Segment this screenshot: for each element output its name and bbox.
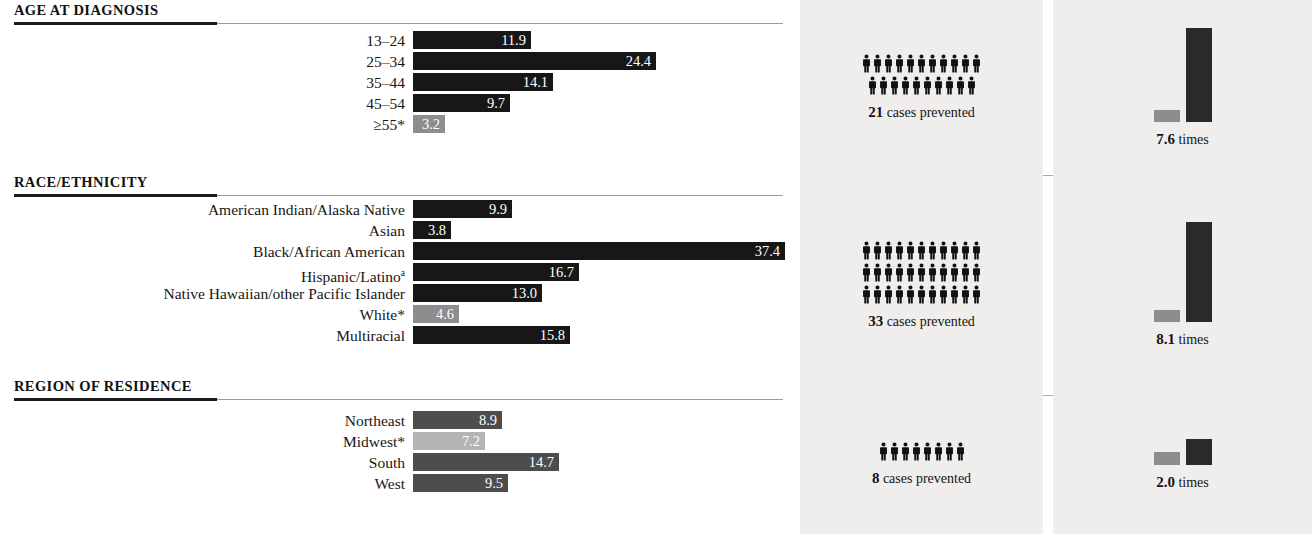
- bar-row-label: Asian: [369, 222, 405, 240]
- section-rule-thin: [217, 195, 783, 196]
- bar-row: Native Hawaiian/other Pacific Islander13…: [0, 284, 800, 305]
- person-icon: [950, 263, 959, 282]
- person-icon: [939, 285, 948, 304]
- bar-value-label: 14.7: [529, 455, 554, 470]
- bar: 14.1: [413, 73, 553, 91]
- bar-row-label: 25–34: [366, 53, 405, 71]
- person-icon: [868, 76, 877, 95]
- bar-value-label: 13.0: [512, 286, 537, 301]
- bar-value-label: 9.7: [487, 96, 505, 111]
- bar-row-label: Black/African American: [253, 243, 405, 261]
- bar-value-label: 24.4: [626, 54, 651, 69]
- cases-prevented-caption: 21 cases prevented: [868, 104, 975, 121]
- bar-value-label: 9.5: [485, 476, 503, 491]
- person-icon: [912, 76, 921, 95]
- bar-row-label: Midwest*: [343, 433, 405, 451]
- person-icon: [884, 54, 893, 73]
- section-heading-region-of-residence: REGION OF RESIDENCE: [14, 378, 192, 395]
- person-icon: [879, 76, 888, 95]
- bar: 3.8: [413, 221, 451, 239]
- bar-row-label: Native Hawaiian/other Pacific Islander: [164, 285, 405, 303]
- section-rule-thick: [14, 398, 217, 401]
- bar-row-label: South: [369, 454, 405, 472]
- person-icon: [906, 241, 915, 260]
- bar-row: Northeast8.9: [0, 411, 800, 432]
- section-rule-thick: [14, 22, 217, 25]
- bar-row-label: White*: [359, 306, 405, 324]
- person-icon: [901, 76, 910, 95]
- ratio-number: 8.1: [1156, 331, 1175, 347]
- bar-rows-age-at-diagnosis: 13–2411.925–3424.435–4414.145–549.7≥55*3…: [0, 31, 800, 136]
- bar-row-label: 45–54: [366, 95, 405, 113]
- bar: 16.7: [413, 263, 579, 281]
- person-icon: [939, 54, 948, 73]
- bar-value-label: 11.9: [501, 33, 526, 48]
- panel-band-region-of-residence: 8 cases prevented2.0 times: [800, 395, 1312, 534]
- bar-row: South14.7: [0, 453, 800, 474]
- panel-band-age-at-diagnosis: 21 cases prevented7.6 times: [800, 0, 1312, 175]
- person-icon: [901, 442, 910, 461]
- bar-row: Multiracial15.8: [0, 326, 800, 347]
- person-icon: [950, 54, 959, 73]
- bar-row: Black/African American37.4: [0, 242, 800, 263]
- ratio-panel: 7.6 times: [1053, 0, 1312, 175]
- person-icon: [939, 263, 948, 282]
- person-icon: [862, 285, 871, 304]
- ratio-bar-pair: [1154, 222, 1212, 322]
- bar-value-label: 3.2: [422, 117, 440, 132]
- person-icon: [873, 263, 882, 282]
- ratio-number: 2.0: [1156, 474, 1175, 490]
- person-icon: [906, 285, 915, 304]
- person-icon: [967, 76, 976, 95]
- cases-prevented-number: 8: [872, 470, 880, 486]
- person-icon: [928, 241, 937, 260]
- cases-prevented-number: 21: [868, 104, 883, 120]
- ratio-caption: 2.0 times: [1156, 474, 1209, 491]
- bar-row-label: ≥55*: [373, 116, 405, 134]
- person-icon: [890, 76, 899, 95]
- bar-rows-region-of-residence: Northeast8.9Midwest*7.2South14.7West9.5: [0, 411, 800, 495]
- bar-row: 25–3424.4: [0, 52, 800, 73]
- bar-row: Hispanic/Latinoa16.7: [0, 263, 800, 284]
- bar-row-label: American Indian/Alaska Native: [208, 201, 405, 219]
- person-icon: [961, 54, 970, 73]
- ratio-reference-bar: [1154, 452, 1180, 465]
- panel-band-race-ethnicity: 33 cases prevented8.1 times: [800, 175, 1312, 395]
- bar-value-label: 4.6: [436, 307, 454, 322]
- person-icon: [934, 76, 943, 95]
- person-icon: [862, 263, 871, 282]
- person-icon: [972, 263, 981, 282]
- bar: 3.2: [413, 115, 445, 133]
- bar-row-label: 35–44: [366, 74, 405, 92]
- cases-prevented-panel: 21 cases prevented: [800, 0, 1043, 175]
- person-icon: [928, 285, 937, 304]
- bar-row: Asian3.8: [0, 221, 800, 242]
- cases-prevented-panel: 8 cases prevented: [800, 395, 1043, 534]
- bar-value-label: 9.9: [489, 202, 507, 217]
- bar-row-label: 13–24: [366, 32, 405, 50]
- section-rule-thick: [14, 194, 217, 197]
- ratio-bar-pair: [1154, 439, 1212, 465]
- person-icon: [890, 442, 899, 461]
- bar-row-label: West: [374, 475, 405, 493]
- person-icon: [923, 76, 932, 95]
- ratio-main-bar: [1186, 28, 1212, 122]
- people-row: [862, 285, 981, 304]
- ratio-panel: 2.0 times: [1053, 395, 1312, 534]
- person-icon: [950, 241, 959, 260]
- person-icon: [972, 241, 981, 260]
- bar: 8.9: [413, 411, 502, 429]
- ratio-reference-bar: [1154, 310, 1180, 322]
- person-icon: [950, 285, 959, 304]
- person-icon: [895, 241, 904, 260]
- section-rule-thin: [217, 23, 783, 24]
- bar: 7.2: [413, 432, 485, 450]
- person-icon: [884, 263, 893, 282]
- people-pictogram: [862, 54, 981, 95]
- person-icon: [945, 76, 954, 95]
- person-icon: [917, 285, 926, 304]
- person-icon: [961, 263, 970, 282]
- bar: 14.7: [413, 453, 559, 471]
- panels-column: 21 cases prevented7.6 times33 cases prev…: [800, 0, 1312, 534]
- bar: 13.0: [413, 284, 542, 302]
